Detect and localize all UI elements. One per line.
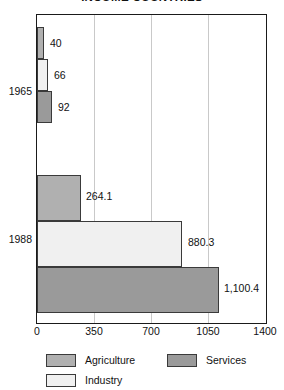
bar-label-1965-industry: 66 [54, 70, 66, 81]
x-axis: 0 350 700 1050 1400 [0, 326, 284, 342]
legend-swatch-industry [46, 374, 76, 387]
bar-label-1965-services: 92 [58, 102, 70, 113]
bar-1965-agriculture[interactable] [37, 27, 44, 59]
x-tick-1400: 1400 [253, 326, 276, 337]
legend-item-industry[interactable]: Industry [46, 374, 122, 387]
legend-swatch-agriculture [46, 354, 76, 367]
bar-label-1965-agriculture: 40 [50, 38, 62, 49]
legend: Agriculture Industry Services [0, 352, 284, 390]
legend-item-agriculture[interactable]: Agriculture [46, 354, 135, 367]
bar-label-1988-industry: 880.3 [188, 237, 214, 248]
legend-label-industry: Industry [85, 375, 122, 386]
chart-title: INCOME COUNTRIES [0, 0, 284, 3]
bar-1965-services[interactable] [37, 91, 52, 123]
bar-label-1988-agriculture: 264.1 [86, 191, 112, 202]
x-tick-700: 700 [142, 326, 160, 337]
x-tick-0: 0 [34, 326, 40, 337]
category-label-1988: 1988 [0, 234, 32, 245]
legend-label-agriculture: Agriculture [85, 355, 135, 366]
legend-swatch-services [167, 354, 197, 367]
bar-label-1988-services: 1,100.4 [224, 283, 259, 294]
legend-item-services[interactable]: Services [167, 354, 246, 367]
bar-1988-industry[interactable] [37, 221, 182, 267]
x-tick-1050: 1050 [196, 326, 219, 337]
x-tick-350: 350 [85, 326, 103, 337]
bar-1988-services[interactable] [37, 267, 219, 313]
plot-area: 40 66 92 264.1 880.3 1,100.4 [36, 14, 267, 324]
bar-1965-industry[interactable] [37, 59, 48, 91]
bar-1988-agriculture[interactable] [37, 175, 81, 221]
legend-label-services: Services [206, 355, 246, 366]
category-label-1965: 1965 [0, 86, 32, 97]
bars-layer: 40 66 92 264.1 880.3 1,100.4 [37, 15, 266, 323]
